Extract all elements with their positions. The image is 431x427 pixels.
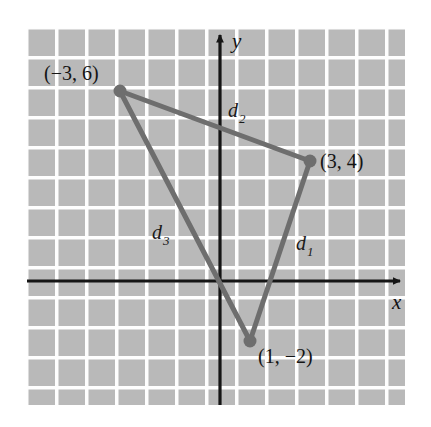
d1-letter: d <box>296 232 307 254</box>
d3-letter: d <box>152 221 163 243</box>
vertex-b-dot <box>304 155 317 168</box>
vertex-c-dot <box>244 335 257 348</box>
vertex-a-label: (−3, 6) <box>44 62 99 85</box>
grid-background <box>27 28 405 405</box>
x-axis-label: x <box>391 290 402 314</box>
d3-subscript: 3 <box>162 233 170 248</box>
d2-letter: d <box>228 99 239 121</box>
vertex-c-label: (1, −2) <box>258 345 313 368</box>
plot-canvas: y x (−3, 6) (3, 4) (1, −2) d2 d1 d3 <box>0 0 431 427</box>
coordinate-plane-figure: y x (−3, 6) (3, 4) (1, −2) d2 d1 d3 <box>0 0 431 427</box>
y-axis-label: y <box>230 29 242 53</box>
d1-subscript: 1 <box>307 244 314 259</box>
vertex-b-label: (3, 4) <box>320 150 363 173</box>
d2-subscript: 2 <box>239 111 246 126</box>
vertex-a-dot <box>114 85 127 98</box>
